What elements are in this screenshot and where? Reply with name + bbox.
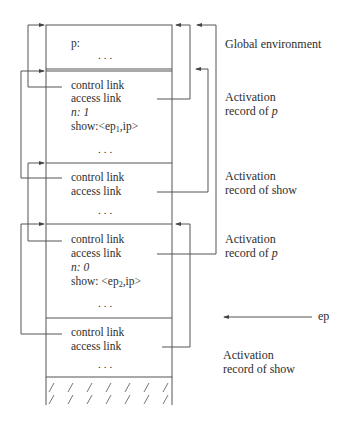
field-control-link: control link	[71, 326, 124, 340]
field-control-link: control link	[71, 171, 124, 185]
stack-bottom-hatch	[49, 383, 168, 404]
field-show-closure: show: <ep2,ip>	[71, 275, 141, 289]
field-access-link: access link	[71, 340, 121, 354]
label-activation: Activation	[225, 169, 276, 183]
stack-frame	[46, 25, 172, 377]
field-n: n: 0	[71, 261, 89, 275]
label-global-environment: Global environment	[225, 37, 321, 51]
control-link-p1	[28, 25, 62, 87]
ellipsis: ...	[98, 358, 115, 370]
field-n: n: 1	[71, 106, 89, 120]
ellipsis: ...	[98, 143, 115, 155]
label-record-of-p: record of p	[225, 104, 278, 118]
field-control-link: control link	[71, 79, 124, 93]
control-link-p2	[28, 163, 62, 241]
access-link-show1	[157, 69, 208, 192]
access-link-p1	[157, 25, 190, 99]
label-record-of-p: record of p	[225, 246, 278, 260]
access-link-p2	[157, 25, 216, 254]
label-activation: Activation	[223, 348, 274, 362]
field-access-link: access link	[71, 185, 121, 199]
field-control-link: control link	[71, 233, 124, 247]
ellipsis: ...	[98, 204, 115, 216]
field-show-closure: show:<ep1,ip>	[71, 120, 138, 134]
label-record-of-show: record of show	[225, 183, 297, 197]
label-record-of-show: record of show	[223, 362, 295, 376]
field-access-link: access link	[71, 247, 121, 261]
ep-label: ep	[318, 309, 329, 323]
field-p: p:	[71, 37, 80, 51]
access-link-show2	[162, 224, 190, 347]
field-access-link: access link	[71, 92, 121, 106]
ellipsis: ...	[98, 297, 115, 309]
label-activation: Activation	[225, 90, 276, 104]
diagram-canvas	[0, 0, 351, 425]
ellipsis: ...	[98, 49, 115, 61]
label-activation: Activation	[225, 232, 276, 246]
